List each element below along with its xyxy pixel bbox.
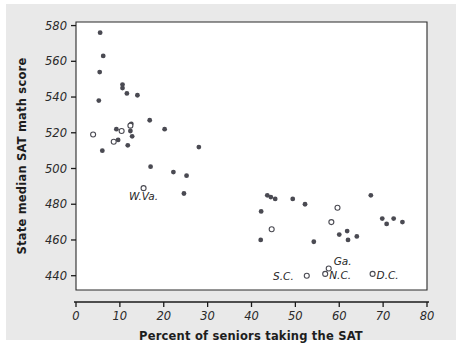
- data-point: [128, 129, 133, 134]
- data-point: [147, 118, 152, 123]
- x-axis-title: Percent of seniors taking the SAT: [139, 329, 363, 343]
- data-point: [329, 220, 334, 225]
- data-point: [130, 134, 135, 139]
- data-point: [162, 127, 167, 132]
- data-point: [269, 227, 274, 232]
- y-tick-label: 560: [45, 54, 67, 68]
- data-point: [97, 70, 102, 75]
- data-point: [370, 271, 375, 276]
- scatter-plot-figure: 440460480500520540560580 010203040506070…: [0, 0, 462, 356]
- data-point: [100, 148, 105, 153]
- y-axis-tick-labels: 440460480500520540560580: [45, 19, 67, 283]
- data-point: [114, 127, 119, 132]
- point-label: W.Va.: [129, 190, 158, 202]
- data-point: [384, 221, 389, 226]
- data-point: [98, 30, 103, 35]
- data-point: [135, 93, 140, 98]
- point-label: S.C.: [273, 270, 294, 282]
- data-point: [290, 196, 295, 201]
- data-point: [124, 91, 129, 96]
- data-point: [354, 234, 359, 239]
- y-tick-label: 500: [45, 162, 67, 176]
- data-point: [337, 232, 342, 237]
- y-tick-label: 580: [45, 19, 67, 33]
- data-point: [171, 170, 176, 175]
- data-point: [391, 216, 396, 221]
- data-point: [101, 54, 106, 59]
- data-point: [268, 195, 273, 200]
- y-tick-label: 440: [45, 269, 67, 283]
- y-tick-label: 540: [45, 90, 67, 104]
- x-axis-tick-labels: 01020304050607080: [72, 309, 434, 323]
- data-point: [91, 132, 96, 137]
- data-point: [303, 202, 308, 207]
- data-point: [311, 239, 316, 244]
- data-point: [304, 273, 309, 278]
- y-tick-label: 520: [45, 126, 67, 140]
- x-tick-label: 70: [376, 309, 391, 323]
- data-point: [148, 164, 153, 169]
- data-point: [258, 238, 263, 243]
- data-point: [128, 123, 133, 128]
- data-point: [120, 86, 125, 91]
- point-label: N.C.: [329, 269, 351, 281]
- x-tick-label: 80: [420, 309, 435, 323]
- x-tick-label: 20: [156, 309, 171, 323]
- data-point: [323, 271, 328, 276]
- data-point: [400, 220, 405, 225]
- x-tick-label: 30: [200, 309, 215, 323]
- data-point: [368, 193, 373, 198]
- x-tick-label: 0: [72, 309, 79, 323]
- data-point: [259, 209, 264, 214]
- point-label: D.C.: [377, 269, 399, 281]
- x-tick-label: 10: [113, 309, 128, 323]
- x-tick-label: 50: [288, 309, 303, 323]
- data-point: [125, 143, 130, 148]
- data-point: [335, 205, 340, 210]
- plot-canvas: 440460480500520540560580 010203040506070…: [0, 0, 462, 356]
- x-tick-label: 40: [244, 309, 259, 323]
- data-point: [111, 139, 116, 144]
- data-point: [345, 229, 350, 234]
- data-point: [184, 173, 189, 178]
- data-point: [119, 128, 124, 133]
- data-point: [346, 238, 351, 243]
- x-tick-label: 60: [332, 309, 347, 323]
- data-point: [273, 196, 278, 201]
- point-label: Ga.: [334, 255, 352, 267]
- plot-area: [76, 22, 427, 290]
- y-tick-label: 480: [45, 197, 67, 211]
- data-point: [380, 216, 385, 221]
- data-point: [196, 145, 201, 150]
- y-axis-title: State median SAT math score: [15, 58, 29, 255]
- data-point: [182, 191, 187, 196]
- y-tick-label: 460: [45, 233, 67, 247]
- data-point: [96, 98, 101, 103]
